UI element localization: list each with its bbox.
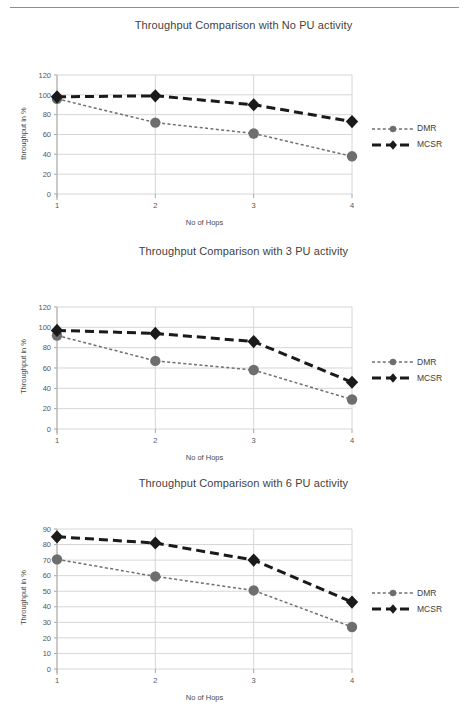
svg-text:30: 30 bbox=[43, 618, 51, 627]
legend-key-mcsr-icon bbox=[372, 139, 414, 151]
y-axis-label: Throughput in % bbox=[19, 317, 28, 417]
svg-text:4: 4 bbox=[350, 676, 354, 685]
legend-item-mcsr[interactable]: MCSR bbox=[372, 601, 442, 617]
svg-text:20: 20 bbox=[43, 404, 51, 413]
svg-text:3: 3 bbox=[252, 436, 256, 445]
legend-item-dmr[interactable]: DMR bbox=[372, 121, 442, 137]
chart-title: Throughput Comparison with 3 PU activity bbox=[0, 240, 469, 257]
page-top-rule bbox=[10, 7, 459, 8]
y-axis-label: throughput in % bbox=[19, 83, 28, 183]
x-axis-label: No of Hops bbox=[7, 693, 402, 702]
svg-text:80: 80 bbox=[43, 343, 51, 352]
chart-legend: DMR MCSR bbox=[372, 585, 442, 617]
svg-text:3: 3 bbox=[252, 201, 256, 210]
svg-text:3: 3 bbox=[252, 676, 256, 685]
plot-area-wrapper: 0204060801001201234 throughput in % No o… bbox=[0, 31, 469, 231]
svg-text:4: 4 bbox=[350, 436, 354, 445]
chart-panel-6-pu: Throughput Comparison with 6 PU activity… bbox=[0, 472, 469, 719]
svg-text:120: 120 bbox=[38, 71, 51, 80]
svg-text:50: 50 bbox=[43, 587, 51, 596]
svg-text:100: 100 bbox=[38, 91, 51, 100]
svg-text:100: 100 bbox=[38, 323, 51, 332]
svg-text:1: 1 bbox=[55, 676, 59, 685]
x-axis-label: No of Hops bbox=[7, 218, 402, 227]
svg-text:40: 40 bbox=[43, 150, 51, 159]
svg-text:60: 60 bbox=[43, 130, 51, 139]
legend-key-dmr-icon bbox=[372, 356, 414, 368]
svg-text:90: 90 bbox=[43, 525, 51, 534]
svg-text:80: 80 bbox=[43, 110, 51, 119]
svg-text:120: 120 bbox=[38, 303, 51, 312]
chart-title: Throughput Comparison with No PU activit… bbox=[0, 14, 469, 31]
legend-key-dmr-icon bbox=[372, 123, 414, 135]
svg-text:1: 1 bbox=[55, 436, 59, 445]
x-axis-label: No of Hops bbox=[7, 453, 402, 462]
plot-area-wrapper: 01020304050607080901234 Throughput in % … bbox=[0, 489, 469, 711]
chart-legend: DMR MCSR bbox=[372, 354, 442, 386]
legend-item-dmr[interactable]: DMR bbox=[372, 585, 442, 601]
svg-text:60: 60 bbox=[43, 364, 51, 373]
legend-label-mcsr: MCSR bbox=[417, 140, 442, 149]
svg-text:20: 20 bbox=[43, 634, 51, 643]
svg-text:40: 40 bbox=[43, 384, 51, 393]
y-axis-label: Throughput in % bbox=[19, 548, 28, 648]
svg-text:2: 2 bbox=[153, 201, 157, 210]
legend-label-dmr: DMR bbox=[417, 124, 436, 133]
svg-text:0: 0 bbox=[47, 425, 51, 434]
legend-label-dmr: DMR bbox=[417, 358, 436, 367]
svg-text:60: 60 bbox=[43, 571, 51, 580]
plot-area-wrapper: 0204060801001201234 Throughput in % No o… bbox=[0, 257, 469, 463]
legend-label-mcsr: MCSR bbox=[417, 374, 442, 383]
svg-text:1: 1 bbox=[55, 201, 59, 210]
legend-key-dmr-icon bbox=[372, 587, 414, 599]
legend-key-mcsr-icon bbox=[372, 603, 414, 615]
chart-panel-3-pu: Throughput Comparison with 3 PU activity… bbox=[0, 240, 469, 472]
svg-text:20: 20 bbox=[43, 170, 51, 179]
chart-panel-no-pu: Throughput Comparison with No PU activit… bbox=[0, 14, 469, 240]
svg-text:80: 80 bbox=[43, 540, 51, 549]
svg-text:0: 0 bbox=[47, 190, 51, 199]
legend-label-mcsr: MCSR bbox=[417, 605, 442, 614]
legend-item-mcsr[interactable]: MCSR bbox=[372, 370, 442, 386]
svg-text:2: 2 bbox=[153, 436, 157, 445]
svg-text:0: 0 bbox=[47, 665, 51, 674]
legend-item-dmr[interactable]: DMR bbox=[372, 354, 442, 370]
svg-text:2: 2 bbox=[153, 676, 157, 685]
svg-text:40: 40 bbox=[43, 602, 51, 611]
svg-text:4: 4 bbox=[350, 201, 354, 210]
svg-text:70: 70 bbox=[43, 556, 51, 565]
chart-title: Throughput Comparison with 6 PU activity bbox=[0, 472, 469, 489]
svg-text:10: 10 bbox=[43, 649, 51, 658]
chart-legend: DMR MCSR bbox=[372, 121, 442, 153]
legend-key-mcsr-icon bbox=[372, 372, 414, 384]
legend-item-mcsr[interactable]: MCSR bbox=[372, 137, 442, 153]
legend-label-dmr: DMR bbox=[417, 589, 436, 598]
